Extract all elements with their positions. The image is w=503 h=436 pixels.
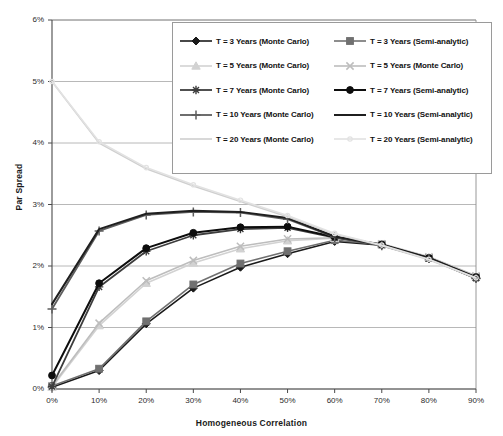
legend-label: T = 5 Years (Monte Carlo): [216, 61, 309, 70]
legend-item: T = 10 Years (Monte Carlo): [179, 103, 333, 128]
y-tick-label: 1%: [18, 323, 44, 332]
marker-square: [143, 318, 150, 325]
legend-swatch: [333, 109, 367, 121]
series-line: [52, 240, 476, 386]
legend: T = 3 Years (Monte Carlo)T = 3 Years (Se…: [172, 22, 492, 174]
legend-swatch: [179, 109, 213, 121]
legend-swatch: [179, 133, 213, 145]
legend-swatch: [179, 35, 213, 47]
x-tick-label: 60%: [315, 396, 355, 405]
x-tick-label: 40%: [220, 396, 260, 405]
legend-item: T = 3 Years (Monte Carlo): [179, 29, 333, 54]
par-spread-chart: Par Spread Homogeneous Correlation 0%1%2…: [0, 0, 503, 436]
legend-label: T = 10 Years (Semi-analytic): [370, 110, 473, 119]
marker-diamond: [192, 37, 200, 45]
legend-label: T = 3 Years (Monte Carlo): [216, 37, 309, 46]
y-tick-label: 0%: [18, 384, 44, 393]
legend-item: T = 10 Years (Semi-analytic): [333, 103, 487, 128]
legend-label: T = 20 Years (Semi-analytic): [370, 135, 473, 144]
legend-label: T = 20 Years (Monte Carlo): [216, 135, 314, 144]
x-tick-label: 0%: [32, 396, 72, 405]
series-line: [52, 241, 476, 387]
marker-circle: [347, 87, 354, 94]
y-tick-label: 4%: [18, 138, 44, 147]
y-tick-label: 6%: [18, 15, 44, 24]
marker-circle: [143, 245, 150, 252]
legend-item: T = 20 Years (Semi-analytic): [333, 127, 487, 152]
marker-square: [237, 260, 244, 267]
legend-item: T = 7 Years (Semi-analytic): [333, 78, 487, 103]
legend-label: T = 5 Years (Monte Carlo): [370, 61, 463, 70]
x-tick-label: 20%: [126, 396, 166, 405]
marker-circle: [49, 372, 56, 379]
marker-plus: [48, 305, 57, 314]
x-axis-label: Homogeneous Correlation: [0, 418, 503, 428]
legend-item: T = 5 Years (Monte Carlo): [179, 54, 333, 79]
x-tick-label: 50%: [268, 396, 308, 405]
x-tick-label: 90%: [456, 396, 496, 405]
x-tick-label: 10%: [79, 396, 119, 405]
marker-square: [96, 365, 103, 372]
legend-item: T = 3 Years (Semi-analytic): [333, 29, 487, 54]
legend-swatch: [333, 84, 367, 96]
marker-square: [284, 248, 291, 255]
y-axis-label: Par Spread: [14, 147, 24, 227]
marker-circle: [190, 229, 197, 236]
legend-swatch: [333, 60, 367, 72]
x-tick-label: 30%: [173, 396, 213, 405]
y-tick-label: 5%: [18, 77, 44, 86]
y-tick-label: 2%: [18, 261, 44, 270]
legend-label: T = 7 Years (Monte Carlo): [216, 86, 309, 95]
legend-item: T = 20 Years (Monte Carlo): [179, 127, 333, 152]
y-tick-label: 3%: [18, 200, 44, 209]
legend-swatch: [333, 133, 367, 145]
marker-square: [190, 281, 197, 288]
legend-item: T = 7 Years (Monte Carlo): [179, 78, 333, 103]
marker-plus: [189, 207, 198, 216]
marker-circle: [284, 223, 291, 230]
legend-label: T = 7 Years (Semi-analytic): [370, 86, 468, 95]
marker-asterisk: [48, 382, 56, 390]
legend-label: T = 10 Years (Monte Carlo): [216, 110, 314, 119]
legend-item: T = 5 Years (Monte Carlo): [333, 54, 487, 79]
series-4: [48, 224, 480, 391]
marker-square: [347, 38, 354, 45]
legend-swatch: [179, 60, 213, 72]
legend-swatch: [333, 35, 367, 47]
marker-plus: [192, 110, 201, 119]
x-tick-label: 70%: [362, 396, 402, 405]
marker-circle: [237, 224, 244, 231]
marker-circle: [96, 280, 103, 287]
x-tick-label: 80%: [409, 396, 449, 405]
legend-swatch: [179, 84, 213, 96]
legend-label: T = 3 Years (Semi-analytic): [370, 37, 468, 46]
marker-asterisk: [192, 86, 200, 94]
